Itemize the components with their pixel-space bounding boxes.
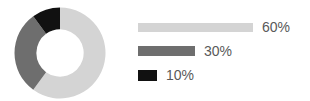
legend-label-10: 10% [166, 68, 194, 82]
chart-legend: 60% 30% 10% [138, 16, 306, 88]
legend-item-30: 30% [138, 43, 232, 59]
legend-item-60: 60% [138, 19, 290, 35]
legend-label-30: 30% [204, 44, 232, 58]
legend-swatch-10 [138, 70, 157, 81]
legend-swatch-30 [138, 46, 195, 56]
legend-swatch-60 [138, 23, 253, 32]
donut-chart-svg [14, 7, 106, 99]
legend-item-10: 10% [138, 67, 194, 83]
donut-slices [14, 8, 105, 99]
legend-label-60: 60% [262, 20, 290, 34]
donut-chart [14, 7, 106, 99]
donut-chart-screenshot: 60% 30% 10% [0, 0, 310, 101]
